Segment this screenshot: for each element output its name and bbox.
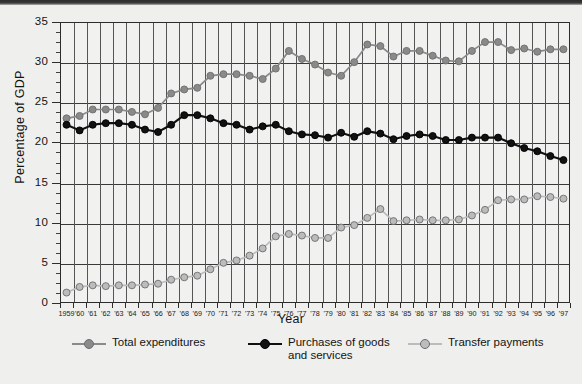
x-tick <box>361 303 362 308</box>
data-point-total-expenditures <box>181 86 188 93</box>
data-point-total-expenditures <box>312 61 319 68</box>
data-point-transfer-payments <box>455 216 462 223</box>
data-point-total-expenditures <box>338 72 345 79</box>
legend-item-total-expenditures[interactable]: Total expenditures <box>72 336 205 351</box>
x-tick <box>138 303 139 308</box>
data-point-total-expenditures <box>115 106 122 113</box>
x-tick <box>152 303 153 308</box>
data-point-total-expenditures <box>142 111 149 118</box>
x-tick <box>439 303 440 308</box>
x-tick <box>544 303 545 308</box>
data-point-total-expenditures <box>377 43 384 50</box>
data-point-transfer-payments <box>325 234 332 241</box>
legend-dot-transfer-payments <box>420 339 430 349</box>
data-point-purchases-goods-services <box>403 133 410 140</box>
data-point-transfer-payments <box>338 224 345 231</box>
data-point-purchases-goods-services <box>351 133 358 140</box>
y-tick-major <box>52 142 60 143</box>
data-point-transfer-payments <box>416 216 423 223</box>
x-axis-title: Year <box>0 312 582 326</box>
data-point-purchases-goods-services <box>468 134 475 141</box>
y-tick-major <box>52 263 60 264</box>
x-tick <box>505 303 506 308</box>
y-axis: Percentage of GDP 05101520253035 <box>0 0 60 325</box>
x-tick <box>387 303 388 308</box>
legend-marker-purchases-goods-services <box>248 337 282 351</box>
data-point-transfer-payments <box>102 283 109 290</box>
data-point-transfer-payments <box>390 218 397 225</box>
y-tick-major <box>52 22 60 23</box>
legend-item-transfer-payments[interactable]: Transfer payments <box>408 336 543 351</box>
data-point-purchases-goods-services <box>455 137 462 144</box>
x-tick <box>73 303 74 308</box>
data-point-total-expenditures <box>521 45 528 52</box>
data-point-total-expenditures <box>155 104 162 111</box>
data-point-total-expenditures <box>560 46 567 53</box>
y-tick-label: 30 <box>35 55 48 67</box>
data-point-total-expenditures <box>351 59 358 66</box>
data-point-transfer-payments <box>508 196 515 203</box>
legend-marker-transfer-payments <box>408 337 442 351</box>
data-point-total-expenditures <box>89 106 96 113</box>
y-tick-major <box>52 62 60 63</box>
data-point-purchases-goods-services <box>325 134 332 141</box>
data-point-transfer-payments <box>403 217 410 224</box>
data-point-total-expenditures <box>468 47 475 54</box>
x-tick <box>531 303 532 308</box>
data-point-total-expenditures <box>168 90 175 97</box>
data-point-total-expenditures <box>272 65 279 72</box>
data-point-purchases-goods-services <box>482 134 489 141</box>
data-point-purchases-goods-services <box>338 129 345 136</box>
series-line-total-expenditures <box>67 42 564 118</box>
data-point-total-expenditures <box>259 76 266 83</box>
data-point-total-expenditures <box>364 41 371 48</box>
x-tick <box>60 303 61 308</box>
data-point-purchases-goods-services <box>155 128 162 135</box>
x-tick <box>492 303 493 308</box>
x-tick <box>400 303 401 308</box>
data-point-transfer-payments <box>259 245 266 252</box>
data-point-total-expenditures <box>416 47 423 54</box>
data-point-transfer-payments <box>272 233 279 240</box>
data-point-total-expenditures <box>547 46 554 53</box>
x-tick <box>452 303 453 308</box>
data-point-transfer-payments <box>547 194 554 201</box>
data-point-purchases-goods-services <box>89 121 96 128</box>
data-point-total-expenditures <box>246 72 253 79</box>
data-point-purchases-goods-services <box>272 121 279 128</box>
x-tick <box>335 303 336 308</box>
data-point-transfer-payments <box>429 217 436 224</box>
data-point-transfer-payments <box>468 212 475 219</box>
legend-dot-total-expenditures <box>84 339 94 349</box>
data-point-total-expenditures <box>76 112 83 119</box>
data-point-purchases-goods-services <box>298 131 305 138</box>
data-point-total-expenditures <box>325 69 332 76</box>
x-tick <box>99 303 100 308</box>
data-point-purchases-goods-services <box>521 145 528 152</box>
data-point-purchases-goods-services <box>429 133 436 140</box>
data-point-purchases-goods-services <box>194 112 201 119</box>
data-point-purchases-goods-services <box>560 157 567 164</box>
data-point-transfer-payments <box>482 206 489 213</box>
data-point-transfer-payments <box>168 276 175 283</box>
data-point-transfer-payments <box>155 280 162 287</box>
y-tick-label: 5 <box>41 256 48 268</box>
data-point-transfer-payments <box>115 282 122 289</box>
data-point-transfer-payments <box>246 252 253 259</box>
x-tick <box>165 303 166 308</box>
data-point-purchases-goods-services <box>233 121 240 128</box>
data-point-purchases-goods-services <box>220 120 227 127</box>
x-tick <box>256 303 257 308</box>
x-tick <box>308 303 309 308</box>
x-tick <box>269 303 270 308</box>
data-point-purchases-goods-services <box>102 120 109 127</box>
y-tick-label: 0 <box>41 296 48 308</box>
x-tick <box>518 303 519 308</box>
data-point-purchases-goods-services <box>168 121 175 128</box>
x-tick <box>465 303 466 308</box>
y-tick-label: 35 <box>35 15 48 27</box>
y-tick-major <box>52 183 60 184</box>
legend-item-purchases-goods-services[interactable]: Purchases of goods and services <box>248 336 390 361</box>
data-point-total-expenditures <box>285 47 292 54</box>
y-tick-label: 20 <box>35 135 48 147</box>
